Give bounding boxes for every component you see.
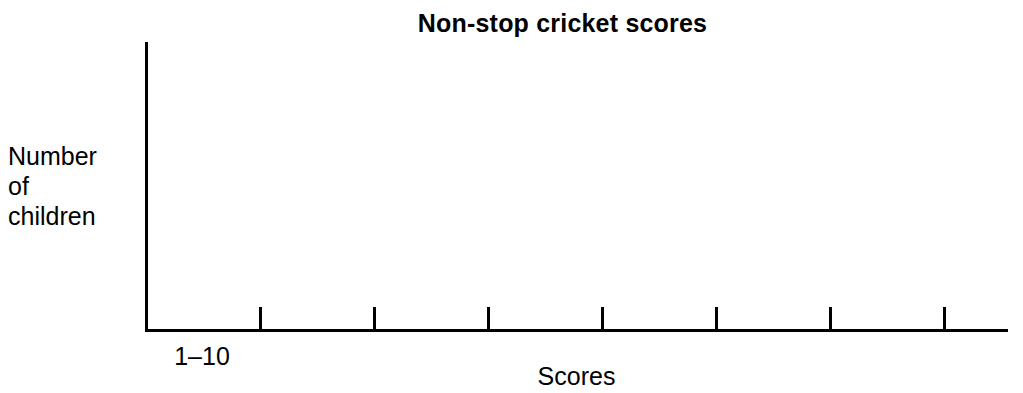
x-axis-line <box>145 329 1008 332</box>
x-axis-tick <box>943 307 946 330</box>
x-axis-tick <box>259 307 262 330</box>
x-axis-label: Scores <box>145 362 1008 390</box>
y-axis-label-line-2: of <box>8 171 140 201</box>
y-axis-label: Number of children <box>8 141 140 231</box>
chart-title: Non-stop cricket scores <box>0 9 1023 37</box>
x-axis-tick <box>715 307 718 330</box>
x-axis-tick <box>487 307 490 330</box>
chart-figure: Non-stop cricket scores Number of childr… <box>0 0 1023 393</box>
x-axis-tick <box>601 307 604 330</box>
x-axis-tick <box>373 307 376 330</box>
y-axis-label-line-3: children <box>8 201 140 231</box>
x-axis-tick <box>829 307 832 330</box>
plot-area <box>148 42 1008 329</box>
y-axis-label-line-1: Number <box>8 141 140 171</box>
